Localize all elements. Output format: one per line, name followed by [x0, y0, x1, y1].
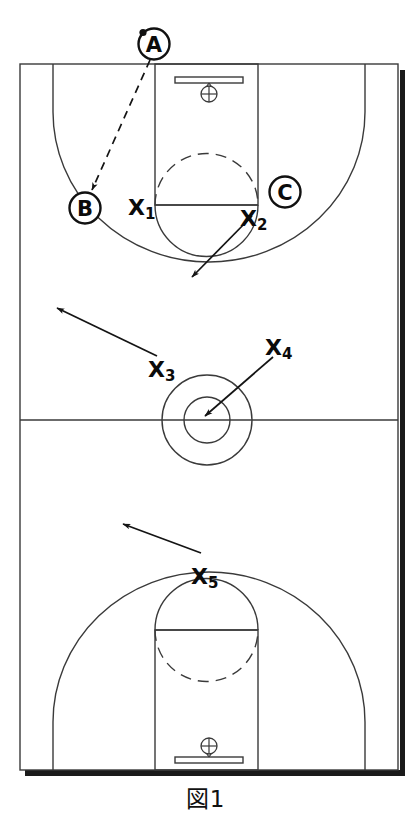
- bottom-basket: [175, 738, 243, 763]
- basketball-court-diagram: A B C X 1 X 2 X 3 X 4 X 5: [0, 0, 411, 830]
- figure-caption: 図1: [0, 784, 411, 814]
- defense-player-x4: X 4: [265, 335, 292, 363]
- defense-player-x5: X 5: [191, 564, 218, 592]
- free-throw-circle-bottom-dashed: [155, 630, 258, 682]
- defense-sub-x2: 2: [257, 216, 267, 234]
- offense-label-b: B: [77, 197, 93, 221]
- lane-top: [155, 64, 258, 205]
- free-throw-circle-top-dashed: [155, 154, 258, 206]
- defense-player-x2: X 2: [240, 206, 267, 234]
- offense-label-c: C: [277, 181, 292, 205]
- court-shadow: [25, 70, 405, 776]
- move-arrow-x5: [123, 524, 201, 553]
- backboard-top: [175, 77, 243, 83]
- defense-sub-x4: 4: [282, 345, 292, 363]
- defense-label-x3: X: [148, 357, 165, 382]
- defense-label-x2: X: [240, 206, 257, 231]
- pass-arrow-a-to-b: [92, 60, 150, 190]
- top-basket: [175, 77, 243, 102]
- move-arrow-x3: [57, 308, 157, 356]
- defense-sub-x1: 1: [145, 205, 155, 223]
- defense-sub-x5: 5: [208, 574, 218, 592]
- basketball-diagram-figure: A B C X 1 X 2 X 3 X 4 X 5: [0, 0, 411, 830]
- offense-player-a: A: [139, 29, 170, 60]
- offense-player-b: B: [70, 193, 101, 224]
- offense-player-c: C: [270, 177, 301, 208]
- defense-sub-x3: 3: [165, 367, 175, 385]
- defense-label-x1: X: [128, 195, 145, 220]
- offense-label-a: A: [146, 33, 163, 57]
- defense-player-x3: X 3: [148, 357, 175, 385]
- defense-label-x4: X: [265, 335, 282, 360]
- defense-label-x5: X: [191, 564, 208, 589]
- move-arrow-x4: [205, 357, 273, 416]
- backboard-bottom: [175, 757, 243, 763]
- court-boundary: [20, 64, 398, 770]
- defense-player-x1: X 1: [128, 195, 155, 223]
- ball-icon: [139, 29, 146, 36]
